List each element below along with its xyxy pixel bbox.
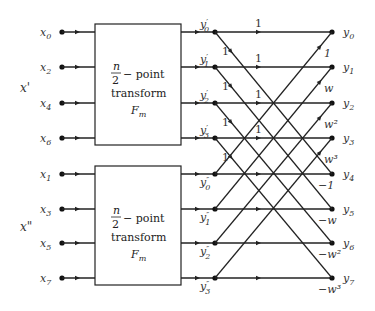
twiddle-label-bottom: −1	[318, 179, 334, 192]
block-point-label: − point	[123, 68, 165, 81]
weight-label-diagonal: 1	[222, 80, 229, 93]
arrow-icon	[75, 101, 80, 105]
arrow-icon	[256, 65, 261, 69]
block-fraction-denom: 2	[112, 74, 119, 87]
group-label-x-prime: x'	[20, 81, 30, 95]
arrow-icon	[256, 30, 261, 34]
block-fraction-denom: 2	[112, 218, 119, 231]
fft-butterfly-diagram: x' x" n 2 − point transform Fm n 2 − poi…	[0, 0, 375, 311]
weight-label-horizontal: 1	[255, 52, 262, 65]
block-transform-label: transform	[111, 87, 167, 100]
arrow-icon	[75, 65, 80, 69]
twiddle-label-up: 1	[324, 47, 331, 60]
input-label-x7: x7	[40, 272, 52, 287]
block-fraction-numer: n	[113, 204, 120, 217]
input-label-x0: x0	[40, 26, 51, 41]
twiddle-label-up: w	[324, 82, 334, 95]
arrow-icon	[256, 136, 261, 140]
input-label-x6: x6	[40, 132, 51, 147]
block-point-label: − point	[123, 212, 165, 225]
arrow-icon	[256, 101, 261, 105]
weight-label-horizontal: 1	[255, 123, 262, 136]
arrow-icon	[256, 276, 261, 280]
arrow-icon	[75, 241, 80, 245]
intermediate-label-ypp0: y″0	[199, 175, 210, 192]
input-label-x4: x4	[40, 97, 51, 112]
group-label-x-double-prime: x"	[20, 220, 32, 234]
twiddle-label-bottom: −w³	[318, 283, 341, 296]
weight-label-horizontal: 1	[255, 17, 262, 30]
block-fm-label: Fm	[130, 248, 147, 263]
transform-block-top	[95, 24, 181, 145]
arrow-icon	[75, 207, 80, 211]
arrow-icon	[75, 30, 80, 34]
twiddle-label-up: w³	[324, 153, 338, 166]
arrow-icon	[75, 136, 80, 140]
weight-label-horizontal: 1	[255, 88, 262, 101]
weight-label-diagonal: 1	[222, 45, 229, 58]
output-label-y6: y6	[342, 237, 354, 252]
arrow-icon	[75, 172, 80, 176]
output-label-y3: y3	[342, 132, 354, 147]
weight-label-diagonal: 1	[222, 116, 229, 129]
intermediate-label-ypp2: y″2	[199, 244, 210, 261]
intermediate-label-ypp3: y″3	[199, 279, 210, 296]
output-label-y2: y2	[342, 97, 354, 112]
input-label-x2: x2	[40, 61, 51, 76]
network-elements: x0x2x4x6y′0y′1y′2y′3x1x3x5x7y″0y″1y″2y″3…	[40, 17, 355, 296]
block-text-bottom: n 2 − point transform Fm	[111, 204, 167, 263]
input-label-x1: x1	[40, 168, 51, 183]
twiddle-label-bottom: −w	[318, 214, 337, 227]
arrow-icon	[256, 172, 261, 176]
block-fraction-numer: n	[113, 60, 120, 73]
intermediate-label-ypp1: y″1	[199, 210, 210, 227]
output-label-y0: y0	[342, 26, 354, 41]
twiddle-label-up: w²	[324, 118, 338, 131]
block-fm-label: Fm	[130, 104, 147, 119]
twiddle-label-bottom: −w²	[318, 248, 341, 261]
transform-block-bottom	[95, 166, 181, 285]
input-label-x3: x3	[40, 203, 51, 218]
output-label-y5: y5	[342, 203, 354, 218]
arrow-icon	[75, 276, 80, 280]
weight-label-diagonal: 1	[222, 151, 229, 164]
arrow-icon	[256, 241, 261, 245]
output-label-y1: y1	[342, 61, 354, 76]
output-label-y7: y7	[342, 272, 355, 287]
output-label-y4: y4	[342, 168, 354, 183]
input-label-x5: x5	[40, 237, 51, 252]
block-transform-label: transform	[111, 231, 167, 244]
arrow-icon	[256, 207, 261, 211]
block-text-top: n 2 − point transform Fm	[111, 60, 167, 119]
